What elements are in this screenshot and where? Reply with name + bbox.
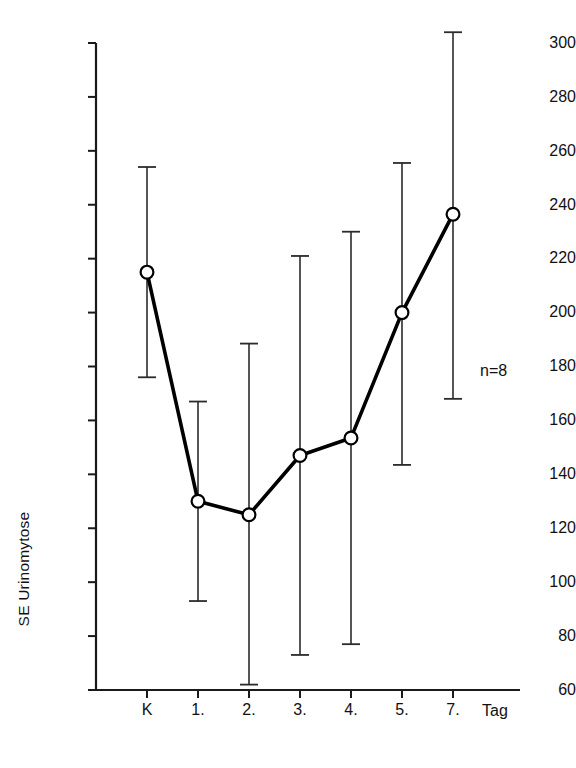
data-point-marker (243, 508, 256, 521)
data-point-marker (294, 449, 307, 462)
chart-figure: SE Urinomytose 300 280 260 240 220 200 1… (0, 0, 576, 768)
data-point-marker (345, 432, 358, 445)
data-point-marker (141, 266, 154, 279)
data-point-marker (192, 495, 205, 508)
data-point-marker (396, 306, 409, 319)
plot-area (0, 0, 576, 768)
data-point-marker (447, 208, 460, 221)
figure-bottom-margin (0, 726, 576, 768)
